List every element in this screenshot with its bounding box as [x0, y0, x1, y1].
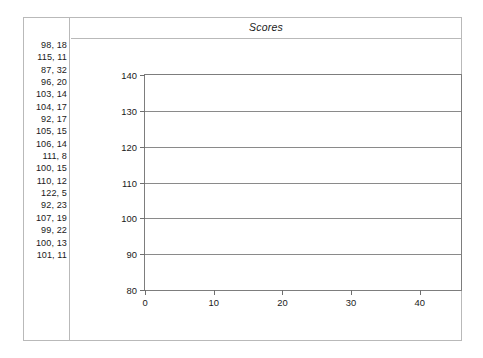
y-axis-tick [140, 218, 145, 219]
gridline-horizontal [145, 111, 461, 112]
x-axis-tick [420, 290, 421, 295]
y-axis-tick [140, 75, 145, 76]
list-item: 122, 5 [36, 187, 67, 199]
data-column: 98, 18115, 1187, 3296, 20103, 14104, 179… [24, 18, 70, 340]
list-item: 101, 11 [36, 249, 67, 261]
x-axis-tick [214, 290, 215, 295]
list-item: 98, 18 [36, 39, 67, 51]
y-axis-tick [140, 147, 145, 148]
list-item: 92, 17 [36, 113, 67, 125]
chart-panel: Scores 8090100110120130140010203040 [71, 18, 461, 340]
y-axis-tick-label: 140 [121, 70, 137, 81]
plot-area: 8090100110120130140010203040 [144, 74, 462, 291]
y-axis-tick [140, 254, 145, 255]
data-values-list: 98, 18115, 1187, 3296, 20103, 14104, 179… [36, 39, 67, 261]
list-item: 115, 11 [36, 51, 67, 63]
list-item: 100, 15 [36, 162, 67, 174]
gridline-horizontal [145, 183, 461, 184]
chart-title: Scores [71, 21, 461, 33]
y-axis-tick [140, 183, 145, 184]
list-item: 87, 32 [36, 64, 67, 76]
list-item: 96, 20 [36, 76, 67, 88]
y-axis-tick [140, 111, 145, 112]
gridline-horizontal [145, 218, 461, 219]
y-axis-tick-label: 80 [127, 285, 137, 296]
list-item: 106, 14 [36, 138, 67, 150]
x-axis-tick [282, 290, 283, 295]
list-item: 100, 13 [36, 237, 67, 249]
gridline-horizontal [145, 147, 461, 148]
x-axis-tick-label: 10 [208, 297, 218, 308]
list-item: 99, 22 [36, 224, 67, 236]
x-axis-tick-label: 40 [415, 297, 425, 308]
x-axis-tick [145, 290, 146, 295]
figure-frame: 98, 18115, 1187, 3296, 20103, 14104, 179… [23, 17, 462, 341]
list-item: 111, 8 [36, 150, 67, 162]
list-item: 104, 17 [36, 101, 67, 113]
y-axis-tick-label: 110 [122, 177, 137, 188]
list-item: 110, 12 [36, 175, 67, 187]
chart-header: Scores [71, 18, 461, 39]
gridline-horizontal [145, 254, 461, 255]
list-item: 92, 23 [36, 199, 67, 211]
y-axis-tick-label: 100 [121, 213, 137, 224]
y-axis-tick-label: 90 [127, 249, 137, 260]
y-axis-tick-label: 120 [121, 141, 137, 152]
list-item: 103, 14 [36, 88, 67, 100]
y-axis-tick-label: 130 [121, 105, 137, 116]
list-item: 105, 15 [36, 125, 67, 137]
x-axis-tick-label: 20 [277, 297, 287, 308]
x-axis-tick-label: 0 [142, 297, 147, 308]
list-item: 107, 19 [36, 212, 67, 224]
x-axis-tick [351, 290, 352, 295]
x-axis-tick-label: 30 [346, 297, 356, 308]
